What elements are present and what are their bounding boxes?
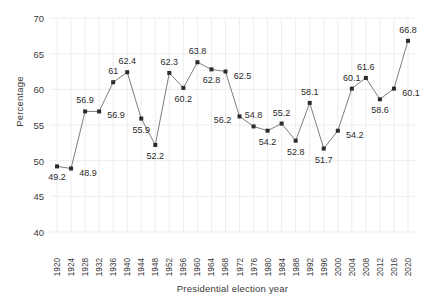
data-point-label: 66.8 (399, 25, 417, 35)
data-point-label: 62.3 (161, 57, 179, 67)
data-point-label: 60.1 (402, 88, 420, 98)
data-point-label: 61 (108, 66, 118, 76)
data-point-label: 58.1 (301, 87, 319, 97)
data-point-label: 58.6 (371, 105, 389, 115)
data-point-label: 52.8 (287, 147, 305, 157)
data-point-label: 62.5 (234, 71, 252, 81)
data-point-label: 56.2 (214, 115, 232, 125)
line-chart: Percentage Presidential election year 40… (0, 0, 425, 304)
plot-area: 49.248.956.956.96162.455.952.262.360.263… (50, 18, 415, 232)
data-point-label: 54.2 (346, 130, 364, 140)
data-point-label: 62.4 (118, 56, 136, 66)
data-point-label: 54.8 (245, 110, 263, 120)
data-point-label: 51.7 (315, 155, 333, 165)
data-point-label: 52.2 (147, 151, 165, 161)
data-point-label: 55.9 (132, 125, 150, 135)
data-point-label: 60.1 (343, 73, 361, 83)
data-point-label: 56.9 (107, 110, 125, 120)
data-point-label: 54.2 (259, 137, 277, 147)
data-point-label: 56.9 (76, 95, 94, 105)
data-point-label: 63.8 (189, 46, 207, 56)
data-point-label: 55.2 (273, 108, 291, 118)
data-point-label: 62.8 (203, 75, 221, 85)
data-point-label: 49.2 (48, 172, 66, 182)
data-point-label: 60.2 (175, 94, 193, 104)
data-point-label: 48.9 (79, 168, 97, 178)
data-point-label: 61.6 (357, 62, 375, 72)
